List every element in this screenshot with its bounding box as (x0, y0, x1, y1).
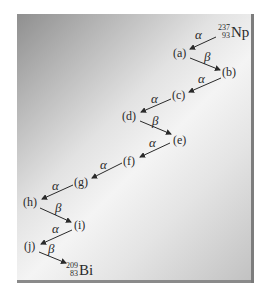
decay-label-np-a: α (195, 28, 202, 41)
arrow-f-g (92, 163, 122, 178)
node-e: (e) (173, 134, 186, 146)
nuclide-np: 23793Np (218, 22, 249, 40)
decay-label-i-j: α (52, 222, 59, 235)
node-f: (f) (123, 155, 135, 167)
arrow-np-a (190, 37, 216, 49)
decay-label-j-bi: β (48, 242, 54, 255)
node-h: (h) (23, 196, 37, 208)
decay-label-c-d: α (151, 92, 158, 105)
np-atomic-number: 93 (218, 32, 230, 40)
decay-label-a-b: β (204, 50, 210, 63)
node-a: (a) (173, 47, 186, 59)
node-j: (j) (24, 240, 35, 252)
bi-symbol: Bi (79, 263, 93, 278)
decay-label-e-f: α (149, 136, 156, 149)
arrow-b-c (189, 78, 221, 92)
decay-label-g-h: α (52, 179, 59, 192)
node-c: (c) (172, 89, 185, 101)
decay-arrows (0, 0, 268, 298)
np-symbol: Np (231, 25, 249, 40)
nuclide-bi: 20983Bi (66, 260, 93, 278)
bi-atomic-number: 83 (66, 270, 78, 278)
node-b: (b) (222, 66, 236, 78)
node-d: (d) (122, 110, 136, 122)
node-g: (g) (74, 176, 88, 188)
node-i: (i) (74, 219, 85, 231)
decay-label-f-g: α (100, 158, 107, 171)
decay-label-b-c: α (198, 72, 205, 85)
decay-label-d-e: β (152, 114, 158, 127)
decay-label-h-i: β (55, 201, 61, 214)
